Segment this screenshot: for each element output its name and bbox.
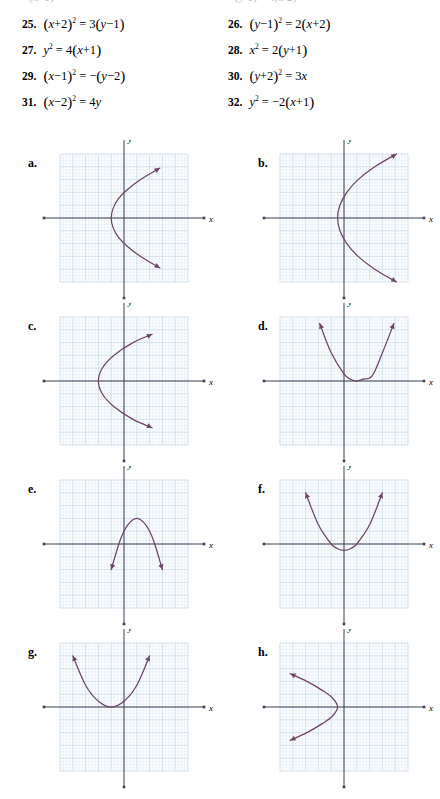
graph-canvas-f: xy: [220, 466, 440, 629]
y-axis-label: y: [127, 466, 132, 470]
axis-endpoint-marker: [263, 380, 266, 383]
exercise-equation: x2 = 2(y+1): [249, 43, 307, 57]
graph-canvas-d: xy: [220, 303, 440, 466]
exercise-item-32: 32.y2 = −2(x+1): [228, 92, 314, 111]
axis-endpoint-marker: [263, 217, 266, 220]
exercise-equation: (y+2)2 = 3x: [249, 69, 307, 83]
axis-endpoint-marker: [123, 786, 126, 789]
cropped-right-fragment: (y-1) = 4(x-2): [235, 0, 296, 3]
exercise-item-28: 28.x2 = 2(y+1): [228, 40, 307, 59]
axis-endpoint-marker: [123, 297, 126, 300]
exercise-row: 27.y2 = 4(x+1)28.x2 = 2(y+1): [0, 40, 440, 66]
exercise-equation: y2 = 4(x+1): [43, 43, 101, 57]
cropped-left-fragment: (x+1): [29, 0, 54, 3]
x-axis-label: x: [208, 540, 213, 550]
graph-panel-g[interactable]: g.xy: [0, 629, 220, 792]
axis-endpoint-marker: [343, 297, 346, 300]
axis-endpoint-marker: [43, 380, 46, 383]
x-axis-label: x: [428, 377, 433, 387]
axis-endpoint-marker: [423, 217, 426, 220]
exercise-equation-list: 25.(x+2)2 = 3(y−1)26.(y−1)2 = 2(x+2)27.y…: [0, 14, 440, 118]
y-axis-label: y: [347, 303, 352, 307]
exercise-number: 25.: [22, 18, 36, 30]
exercise-number: 26.: [228, 18, 242, 30]
x-axis-label: x: [208, 214, 213, 224]
exercise-number: 27.: [22, 44, 36, 56]
y-axis-label: y: [127, 629, 132, 633]
axis-endpoint-marker: [263, 706, 266, 709]
axis-endpoint-marker: [423, 706, 426, 709]
y-axis-label: y: [347, 140, 352, 144]
exercise-row: 25.(x+2)2 = 3(y−1)26.(y−1)2 = 2(x+2): [0, 14, 440, 40]
graph-canvas-h: xy: [220, 629, 440, 792]
exercise-row: 31.(x−2)2 = 4y32.y2 = −2(x+1): [0, 92, 440, 118]
graph-row: g.xyh.xy: [0, 629, 440, 792]
graph-panel-a[interactable]: a.xy: [0, 140, 220, 303]
cropped-top-equation-row: (x+1) (y-1) = 4(x-2): [0, 0, 440, 5]
x-axis-label: x: [428, 540, 433, 550]
exercise-equation: (x−1)2 = −(y−2): [43, 69, 125, 83]
exercise-number: 31.: [22, 96, 36, 108]
exercise-item-25: 25.(x+2)2 = 3(y−1): [22, 14, 124, 33]
x-axis-label: x: [428, 214, 433, 224]
exercise-equation: (y−1)2 = 2(x+2): [249, 17, 330, 31]
axis-endpoint-marker: [43, 543, 46, 546]
axis-endpoint-marker: [203, 380, 206, 383]
axis-endpoint-marker: [343, 786, 346, 789]
graph-canvas-b: xy: [220, 140, 440, 303]
exercise-row: 29.(x−1)2 = −(y−2)30.(y+2)2 = 3x: [0, 66, 440, 92]
y-axis-label: y: [347, 629, 352, 633]
exercise-item-29: 29.(x−1)2 = −(y−2): [22, 66, 125, 85]
graph-canvas-c: xy: [0, 303, 220, 466]
axis-endpoint-marker: [123, 623, 126, 626]
axis-endpoint-marker: [203, 706, 206, 709]
exercise-equation: (x+2)2 = 3(y−1): [43, 17, 124, 31]
y-axis-label: y: [347, 466, 352, 470]
exercise-equation: (x−2)2 = 4y: [43, 95, 101, 109]
exercise-item-30: 30.(y+2)2 = 3x: [228, 66, 307, 85]
graph-row: e.xyf.xy: [0, 466, 440, 629]
axis-endpoint-marker: [423, 380, 426, 383]
x-axis-label: x: [208, 703, 213, 713]
exercise-number: 29.: [22, 70, 36, 82]
exercise-equation: y2 = −2(x+1): [249, 95, 314, 109]
graph-panel-e[interactable]: e.xy: [0, 466, 220, 629]
axis-endpoint-marker: [203, 543, 206, 546]
axis-endpoint-marker: [343, 460, 346, 463]
exercise-number: 28.: [228, 44, 242, 56]
exercise-number: 32.: [228, 96, 242, 108]
graph-panel-f[interactable]: f.xy: [220, 466, 440, 629]
graph-panel-c[interactable]: c.xy: [0, 303, 220, 466]
axis-endpoint-marker: [43, 217, 46, 220]
y-axis-label: y: [127, 140, 132, 144]
graph-panel-b[interactable]: b.xy: [220, 140, 440, 303]
axis-endpoint-marker: [343, 623, 346, 626]
exercise-item-31: 31.(x−2)2 = 4y: [22, 92, 101, 111]
exercise-number: 30.: [228, 70, 242, 82]
graph-row: c.xyd.xy: [0, 303, 440, 466]
axis-endpoint-marker: [263, 543, 266, 546]
graph-canvas-e: xy: [0, 466, 220, 629]
axis-endpoint-marker: [43, 706, 46, 709]
exercise-item-27: 27.y2 = 4(x+1): [22, 40, 101, 59]
y-axis-label: y: [127, 303, 132, 307]
graph-row: a.xyb.xy: [0, 140, 440, 303]
exercise-item-26: 26.(y−1)2 = 2(x+2): [228, 14, 330, 33]
answer-choice-graph-grid: a.xyb.xyc.xyd.xye.xyf.xyg.xyh.xy: [0, 140, 440, 792]
axis-endpoint-marker: [423, 543, 426, 546]
graph-canvas-g: xy: [0, 629, 220, 792]
graph-panel-d[interactable]: d.xy: [220, 303, 440, 466]
graph-canvas-a: xy: [0, 140, 220, 303]
x-axis-label: x: [208, 377, 213, 387]
x-axis-label: x: [428, 703, 433, 713]
axis-endpoint-marker: [123, 460, 126, 463]
graph-panel-h[interactable]: h.xy: [220, 629, 440, 792]
axis-endpoint-marker: [203, 217, 206, 220]
